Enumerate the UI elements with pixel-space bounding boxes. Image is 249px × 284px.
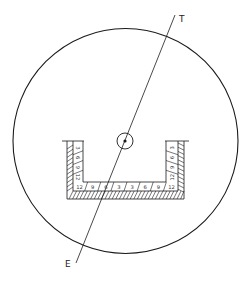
- label-t: T: [178, 14, 185, 24]
- floor-cell-5: 6: [144, 184, 147, 190]
- left-wall-cell-3: 12: [75, 174, 81, 181]
- floor-cell-1: 9: [91, 184, 94, 190]
- right-wall-cell-0: 3: [169, 146, 175, 149]
- floor-cell-4: 3: [130, 184, 133, 190]
- left-wall-cell-0: 3: [75, 146, 81, 149]
- center-dot: [123, 139, 126, 142]
- left-wall-cell-2: 9: [75, 166, 81, 169]
- axis-line-t-e: [76, 15, 175, 263]
- right-wall-cell-2: 9: [169, 166, 175, 169]
- floor-cell-2: 6: [104, 184, 107, 190]
- right-wall-cell-1: 6: [169, 156, 175, 159]
- diagram-canvas: T E 12963369123691236912: [0, 0, 249, 284]
- floor-cell-7: 12: [168, 184, 175, 190]
- floor-cell-6: 9: [157, 184, 160, 190]
- wall-cells: 12963369123691236912: [73, 146, 178, 191]
- label-e: E: [65, 259, 71, 269]
- left-wall-cell-1: 6: [75, 156, 81, 159]
- floor-cell-3: 3: [117, 184, 120, 190]
- floor-cell-0: 12: [76, 184, 83, 190]
- right-wall-cell-3: 12: [169, 174, 175, 181]
